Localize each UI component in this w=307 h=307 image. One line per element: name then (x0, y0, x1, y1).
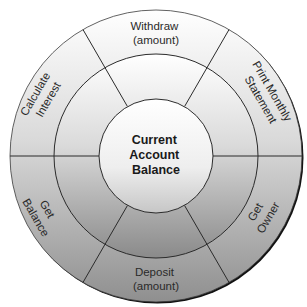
withdraw-line-2: (amount) (133, 34, 179, 46)
center-label-line-3: Balance (132, 163, 180, 177)
deposit-line-2: (amount) (133, 280, 179, 292)
deposit-line-1: Deposit (135, 266, 175, 278)
withdraw-line-1: Withdraw (130, 20, 179, 32)
center-label-line-1: Current (132, 133, 178, 147)
account-object-diagram: Current Account Balance Withdraw (amount… (0, 0, 307, 307)
center-label-line-2: Account (129, 148, 180, 162)
center-label: Current Account Balance (129, 133, 182, 177)
ring-diagram-svg: Current Account Balance Withdraw (amount… (0, 0, 307, 307)
